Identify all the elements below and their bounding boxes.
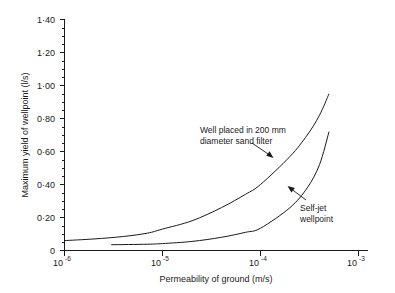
sand-filter-arrowhead	[266, 151, 273, 158]
x-tick-label-2: 10 -4	[249, 255, 267, 268]
x-tick-exponent-0: -6	[65, 255, 71, 262]
x-axis-ticks	[65, 251, 359, 256]
y-tick-label-6: 1·20	[37, 48, 55, 58]
y-tick-label-7: 1·40	[37, 15, 55, 25]
x-axis-title: Permeability of ground (m/s)	[159, 274, 272, 284]
self-jet-annotation: Self-jet wellpoint	[288, 186, 334, 224]
self-jet-annotation-line-1: Self-jet	[300, 203, 327, 213]
x-tick-base-1: 10	[151, 258, 161, 268]
y-tick-label-0: 0	[50, 246, 55, 256]
x-tick-exponent-3: -3	[359, 255, 365, 262]
curve-sand-filter	[65, 94, 330, 241]
x-tick-label-0: 10 -6	[53, 255, 71, 268]
x-tick-label-3: 10 -3	[347, 255, 365, 268]
y-tick-label-5: 1·00	[37, 81, 55, 91]
sand-filter-annotation-line-2: diameter sand filter	[200, 136, 272, 146]
y-axis-title: Maximum yield of wellpoint (l/s)	[20, 72, 30, 197]
y-tick-label-1: 0·20	[37, 213, 55, 223]
x-tick-exponent-1: -5	[163, 255, 169, 262]
sand-filter-annotation-line-1: Well placed in 200 mm	[200, 125, 286, 135]
y-tick-label-2: 0·40	[37, 180, 55, 190]
y-tick-label-4: 0·80	[37, 114, 55, 124]
x-tick-base-3: 10	[347, 258, 357, 268]
x-tick-base-0: 10	[53, 258, 63, 268]
self-jet-arrowhead	[288, 186, 295, 193]
self-jet-annotation-line-2: wellpoint	[299, 214, 334, 224]
y-tick-label-3: 0·60	[37, 147, 55, 157]
x-tick-base-2: 10	[249, 258, 259, 268]
x-tick-exponent-2: -4	[261, 255, 267, 262]
permeability-yield-chart: 0 0·20 0·40 0·60 0·80 1·00 1·20 1·40 Max…	[0, 0, 395, 293]
x-tick-label-1: 10 -5	[151, 255, 169, 268]
chart-figure: 0 0·20 0·40 0·60 0·80 1·00 1·20 1·40 Max…	[0, 0, 395, 293]
sand-filter-annotation: Well placed in 200 mm diameter sand filt…	[200, 125, 286, 158]
